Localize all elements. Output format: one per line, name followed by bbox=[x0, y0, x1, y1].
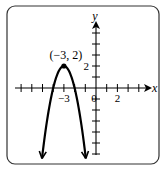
x-tick-label: −3 bbox=[58, 92, 70, 104]
y-tick-labels: 2 bbox=[84, 60, 90, 72]
vertex-point bbox=[61, 63, 66, 68]
x-axis-label: x bbox=[151, 81, 158, 95]
x-tick-label: 2 bbox=[115, 92, 121, 104]
parabola-curve bbox=[42, 66, 86, 158]
vertex-label: (−3, 2) bbox=[50, 48, 83, 62]
x-tick-label: 0 bbox=[91, 92, 97, 104]
y-axis-label: y bbox=[91, 9, 98, 23]
x-tick-labels: −302 bbox=[58, 92, 120, 104]
parabola-graph: (−3, 2) x y −302 2 bbox=[0, 0, 163, 171]
y-tick-label: 2 bbox=[84, 60, 90, 72]
